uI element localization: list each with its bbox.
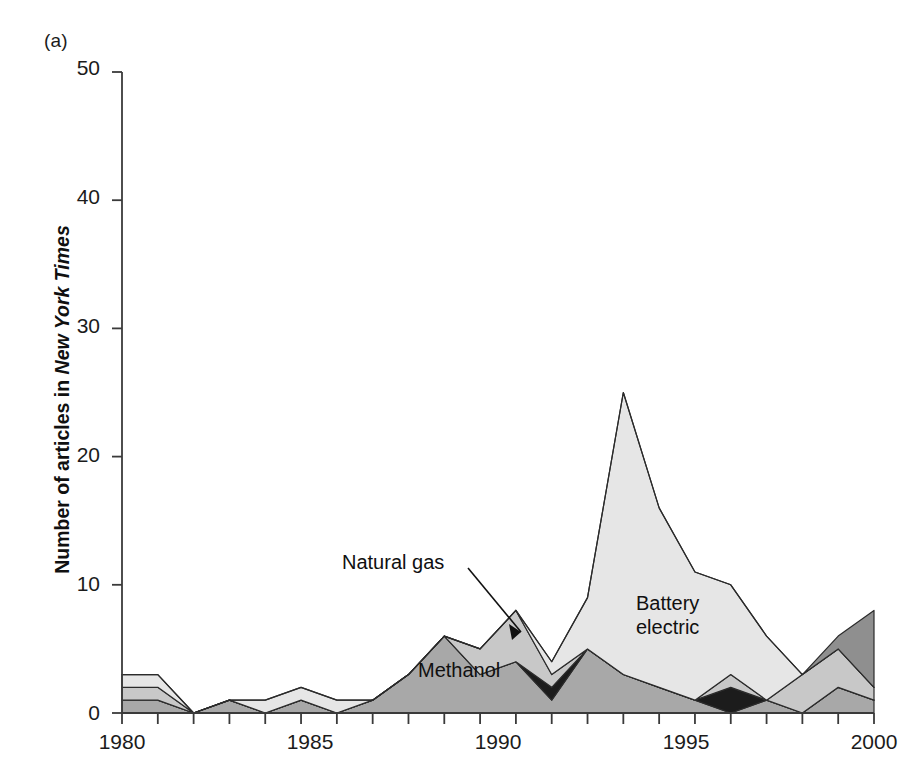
annotation-battery-electric-line1: Battery — [636, 592, 699, 616]
annotation-natural-gas: Natural gas — [342, 551, 444, 575]
annotation-battery-electric: Battery electric — [636, 592, 699, 639]
annotation-battery-electric-line2: electric — [636, 616, 699, 640]
figure-panel: (a) Number of articles in New York Times… — [0, 0, 914, 783]
annotation-methanol: Methanol — [418, 659, 500, 683]
leader-line-segment — [468, 568, 521, 632]
natural-gas-leader-line — [468, 568, 521, 640]
